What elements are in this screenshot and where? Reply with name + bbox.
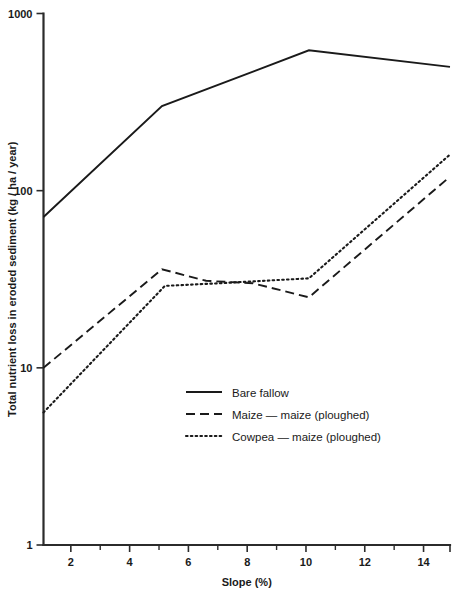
x-tick-label: 10 [300, 556, 312, 568]
x-tick-label: 8 [244, 556, 250, 568]
legend-label: Bare fallow [232, 387, 290, 399]
y-tick-label: 1 [26, 539, 32, 551]
series-line-solid [44, 50, 451, 217]
x-tick-label: 12 [359, 556, 371, 568]
x-tick-label: 4 [127, 556, 134, 568]
x-tick-label: 14 [417, 556, 430, 568]
chart-legend: Bare fallowMaize — maize (ploughed)Cowpe… [186, 387, 381, 443]
y-tick-label: 1000 [8, 8, 32, 20]
x-tick-label: 6 [185, 556, 191, 568]
x-axis-tick-labels: 2468101214 [68, 556, 431, 568]
y-tick-label: 10 [20, 362, 32, 374]
x-tick-label: 2 [68, 556, 74, 568]
legend-label: Maize — maize (ploughed) [232, 409, 370, 421]
plot-axes [44, 14, 451, 546]
chart-figure: 1101001000 2468101214 Slope (%) Total nu… [0, 0, 470, 591]
y-axis-title: Total nutrient loss in eroded sediment (… [6, 141, 18, 417]
chart-svg: 1101001000 2468101214 Slope (%) Total nu… [0, 0, 470, 591]
legend-label: Cowpea — maize (ploughed) [232, 431, 381, 443]
series-line-dashed [44, 177, 451, 368]
x-axis-title: Slope (%) [222, 576, 272, 588]
chart-series-group [44, 50, 451, 412]
